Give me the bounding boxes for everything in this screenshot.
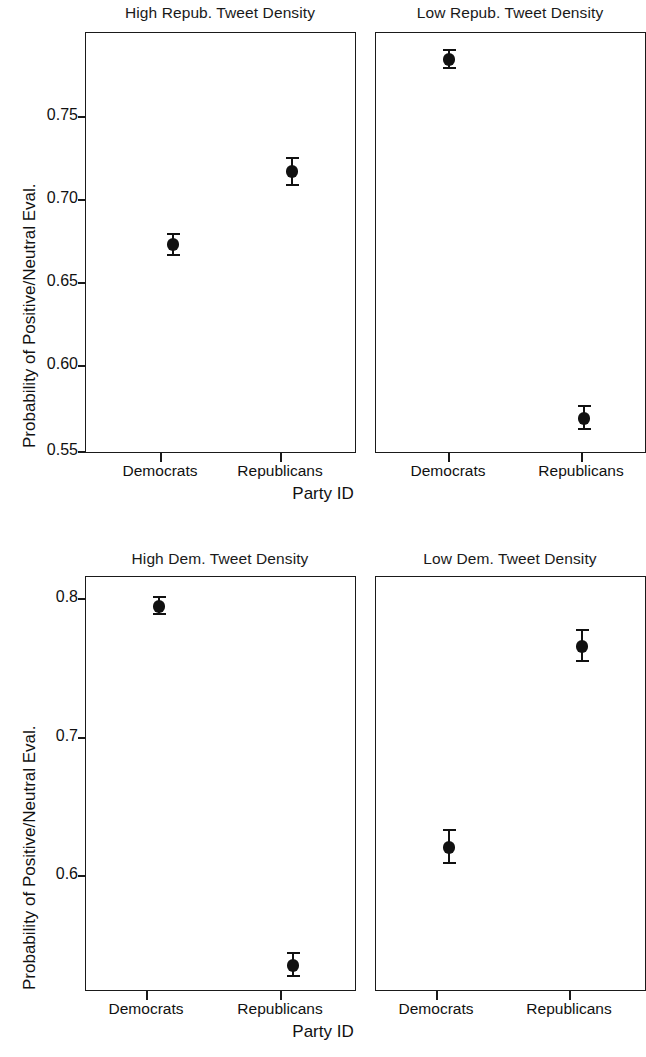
error-cap-top <box>286 157 299 159</box>
figure-root: High Repub. Tweet Density Low Repub. Twe… <box>0 0 646 1057</box>
error-cap-bottom <box>287 975 300 977</box>
x-tick-label: Democrats <box>95 462 225 480</box>
data-point-democrats <box>437 577 461 992</box>
point-marker <box>167 238 180 251</box>
x-axis-label-top: Party ID <box>273 484 373 504</box>
y-tick-label: 0.8 <box>18 588 78 606</box>
x-tick-mark <box>436 991 438 1000</box>
chart-dem-tweet-density: High Dem. Tweet Density Low Dem. Tweet D… <box>0 530 646 1057</box>
error-cap-top <box>287 952 300 954</box>
x-tick-mark <box>280 991 282 1000</box>
panel-title-low-dem: Low Dem. Tweet Density <box>375 550 645 568</box>
panel-title-high-repub: High Repub. Tweet Density <box>85 4 355 22</box>
y-tick-label: 0.60 <box>18 355 78 373</box>
panel-title-high-dem: High Dem. Tweet Density <box>85 550 355 568</box>
error-cap-bottom <box>578 428 591 430</box>
point-marker <box>578 412 591 425</box>
y-tick-label: 0.7 <box>18 727 78 745</box>
x-tick-mark <box>448 453 450 462</box>
error-cap-bottom <box>576 660 589 662</box>
y-tick-label: 0.70 <box>18 189 78 207</box>
error-cap-bottom <box>153 613 166 615</box>
x-tick-label: Republicans <box>516 462 646 480</box>
point-marker <box>153 600 166 613</box>
y-tick-label: 0.55 <box>18 441 78 459</box>
x-tick-mark <box>569 991 571 1000</box>
panel-title-low-repub: Low Repub. Tweet Density <box>375 4 645 22</box>
data-point-democrats <box>147 577 171 992</box>
x-tick-label: Democrats <box>383 462 513 480</box>
point-marker <box>287 959 300 972</box>
x-tick-label: Democrats <box>81 1000 211 1018</box>
x-tick-label: Democrats <box>371 1000 501 1018</box>
x-tick-mark <box>581 453 583 462</box>
y-tick-label: 0.75 <box>18 106 78 124</box>
chart-repub-tweet-density: High Repub. Tweet Density Low Repub. Twe… <box>0 0 646 510</box>
x-tick-mark <box>146 991 148 1000</box>
data-point-republicans <box>572 33 596 454</box>
data-point-republicans <box>280 33 304 454</box>
error-cap-bottom <box>443 862 456 864</box>
data-point-republicans <box>570 577 594 992</box>
error-cap-bottom <box>443 67 456 69</box>
plot-panel-low-dem <box>375 576 646 991</box>
x-tick-label: Republicans <box>215 462 345 480</box>
error-cap-top <box>443 829 456 831</box>
error-cap-top <box>153 596 166 598</box>
x-tick-mark <box>160 453 162 462</box>
x-tick-label: Republicans <box>215 1000 345 1018</box>
error-cap-top <box>167 233 180 235</box>
plot-panel-high-dem <box>85 576 356 991</box>
x-axis-label-bottom: Party ID <box>273 1022 373 1042</box>
point-marker <box>443 53 456 66</box>
error-cap-top <box>443 49 456 51</box>
y-tick-label: 0.65 <box>18 272 78 290</box>
data-point-democrats <box>161 33 185 454</box>
plot-panel-low-repub <box>375 32 646 453</box>
y-tick-label: 0.6 <box>18 865 78 883</box>
plot-panel-high-repub <box>85 32 356 453</box>
point-marker <box>576 640 589 653</box>
error-cap-top <box>578 405 591 407</box>
point-marker <box>286 165 299 178</box>
y-axis-label-top: Probability of Positive/Neutral Eval. <box>20 183 40 448</box>
error-cap-bottom <box>286 184 299 186</box>
point-marker <box>443 841 456 854</box>
data-point-republicans <box>281 577 305 992</box>
data-point-democrats <box>437 33 461 454</box>
error-cap-top <box>576 629 589 631</box>
error-cap-bottom <box>167 254 180 256</box>
y-axis-label-bottom: Probability of Positive/Neutral Eval. <box>20 725 40 990</box>
x-tick-label: Republicans <box>504 1000 634 1018</box>
x-tick-mark <box>280 453 282 462</box>
